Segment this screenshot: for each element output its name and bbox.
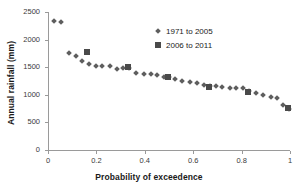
y-tick-label: 2500 [14, 7, 40, 16]
diamond-marker-icon [155, 28, 161, 34]
x-tick-label: 0.8 [229, 156, 255, 165]
data-point-diamond [227, 85, 233, 91]
data-point-diamond [268, 94, 274, 100]
y-tick-label: 1500 [14, 62, 40, 71]
data-point-diamond [172, 77, 178, 83]
data-point-diamond [86, 61, 92, 67]
y-tick-mark [45, 122, 48, 123]
x-tick-label: 0.4 [132, 156, 158, 165]
annual-rainfall-exceedence-chart: Annual rainfall (mm) Probability of exce… [0, 0, 298, 192]
data-point-square [125, 64, 131, 70]
data-point-diamond [73, 53, 79, 59]
data-point-diamond [114, 66, 120, 72]
data-point-diamond [148, 71, 154, 77]
x-axis-title: Probability of exceedence [0, 172, 298, 182]
legend-marker-diamond-icon [154, 27, 162, 35]
y-tick-label: 500 [14, 117, 40, 126]
data-point-diamond [194, 80, 200, 86]
legend-label: 1971 to 2005 [166, 27, 213, 36]
data-point-diamond [100, 63, 106, 69]
x-tick-label: 0 [35, 156, 61, 165]
x-tick-label: 1 [277, 156, 298, 165]
data-point-diamond [66, 50, 72, 56]
x-tick-label: 0.2 [83, 156, 109, 165]
data-point-diamond [133, 70, 139, 76]
chart-legend: 1971 to 20052006 to 2011 [154, 26, 213, 50]
data-point-square [285, 105, 291, 111]
y-axis-line [48, 12, 49, 150]
data-point-diamond [253, 90, 259, 96]
x-tick-mark [193, 151, 194, 154]
data-point-square [165, 74, 171, 80]
data-point-diamond [219, 84, 225, 90]
y-tick-label: 0 [14, 145, 40, 154]
square-marker-icon [155, 42, 161, 48]
data-point-square [206, 84, 212, 90]
data-point-square [245, 89, 251, 95]
legend-entry: 1971 to 2005 [154, 26, 213, 36]
y-tick-mark [45, 12, 48, 13]
data-point-diamond [179, 78, 185, 84]
data-point-diamond [154, 73, 160, 79]
x-axis-line [48, 150, 290, 151]
y-axis-title: Annual rainfall (mm) [6, 41, 16, 125]
data-point-diamond [233, 85, 239, 91]
data-point-diamond [187, 79, 193, 85]
y-tick-label: 2000 [14, 35, 40, 44]
data-point-diamond [79, 58, 85, 64]
x-tick-mark [96, 151, 97, 154]
y-tick-mark [45, 67, 48, 68]
legend-label: 2006 to 2011 [166, 41, 212, 50]
y-tick-mark [45, 95, 48, 96]
data-point-diamond [274, 95, 280, 101]
x-tick-mark [290, 151, 291, 154]
data-point-square [84, 49, 90, 55]
y-tick-mark [45, 40, 48, 41]
data-point-diamond [107, 63, 113, 69]
legend-entry: 2006 to 2011 [154, 40, 213, 50]
data-point-diamond [141, 71, 147, 77]
x-tick-mark [48, 151, 49, 154]
data-point-diamond [58, 19, 64, 25]
y-tick-label: 1000 [14, 90, 40, 99]
x-tick-mark [242, 151, 243, 154]
x-tick-label: 0.6 [180, 156, 206, 165]
data-point-diamond [261, 92, 267, 98]
x-tick-mark [145, 151, 146, 154]
legend-marker-square-icon [154, 41, 162, 49]
data-point-diamond [51, 18, 57, 24]
